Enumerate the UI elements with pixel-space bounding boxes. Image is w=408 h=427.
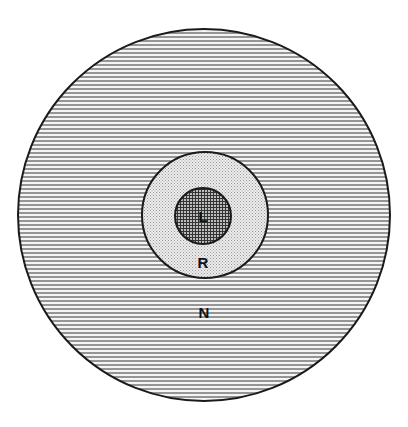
label-l: L: [198, 208, 207, 225]
label-n: N: [199, 304, 210, 321]
concentric-diagram: L R N: [0, 0, 408, 427]
label-r: R: [198, 254, 209, 271]
